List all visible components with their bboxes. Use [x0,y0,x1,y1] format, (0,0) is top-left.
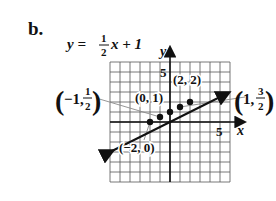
svg-text:1,: 1, [243,91,255,107]
svg-text:2: 2 [101,46,107,58]
point-neg2-0 [147,119,153,125]
label-neg1-half: ( −1, 1 2 ) [55,85,101,116]
svg-text:): ) [92,85,101,116]
y-axis-label: y [158,44,167,59]
svg-text:1: 1 [85,85,91,97]
label-neg2-0: (−2, 0) [119,140,155,155]
svg-text:2: 2 [85,100,91,112]
x-tick-label: 5 [216,124,223,139]
point-2-2 [187,99,193,105]
svg-text:(: ( [234,85,243,116]
point-1-3half [177,104,183,110]
y-tick-label: 5 [160,65,167,80]
point-neg1-half [157,114,163,120]
equation: y = 1 2 x + 1 [65,32,142,58]
label-0-1: (0, 1) [135,90,163,105]
point-0-1 [167,109,173,115]
graph: y x 5 5 y = 1 2 x + 1 (2, 2) (0, 1) (−2,… [0,0,276,201]
svg-text:): ) [265,85,274,116]
svg-text:1: 1 [101,32,107,44]
svg-text:x + 1: x + 1 [110,36,142,52]
svg-text:−1,: −1, [64,91,84,107]
label-2-2: (2, 2) [173,72,201,87]
svg-text:3: 3 [258,85,264,97]
svg-text:2: 2 [258,100,264,112]
svg-text:(: ( [55,85,64,116]
label-1-3half: ( 1, 3 2 ) [234,85,274,116]
x-axis-label: x [236,123,244,138]
svg-text:y =: y = [65,36,86,52]
